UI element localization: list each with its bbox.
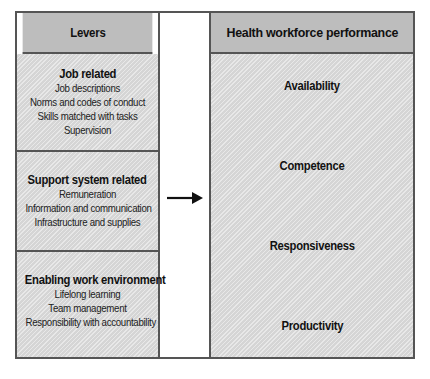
lever-item: Infrastructure and supplies (25, 215, 149, 229)
outcome-label: Competence (280, 159, 345, 173)
lever-section-title: Job related (59, 67, 116, 81)
levers-header-label: Levers (70, 25, 105, 40)
outcome-label: Responsiveness (269, 239, 354, 253)
lever-section-job-related: Job related Job descriptions Norms and c… (17, 54, 158, 152)
lever-item: Skills matched with tasks (25, 109, 149, 123)
outcome-competence: Competence (211, 159, 413, 173)
lever-item: Supervision (25, 123, 149, 137)
outcome-label: Availability (284, 79, 340, 93)
lever-item: Team management (25, 301, 149, 315)
outcome-responsiveness: Responsiveness (211, 239, 413, 253)
lever-item: Norms and codes of conduct (25, 95, 149, 109)
levers-column: Levers Job related Job descriptions Norm… (15, 11, 160, 359)
performance-column: Health workforce performance Availabilit… (209, 11, 415, 359)
performance-header: Health workforce performance (211, 13, 413, 54)
performance-body: Availability Competence Responsiveness P… (211, 54, 413, 357)
lever-section-title: Support system related (28, 173, 147, 187)
right-arrow-icon (167, 191, 203, 205)
lever-item: Information and communication (25, 201, 149, 215)
outcome-label: Productivity (281, 319, 343, 333)
lever-item: Job descriptions (25, 81, 149, 95)
lever-section-enabling-environment: Enabling work environment Lifelong learn… (17, 252, 158, 357)
outcome-availability: Availability (211, 79, 413, 93)
levers-header: Levers (23, 13, 153, 54)
lever-section-support-system: Support system related Remuneration Info… (17, 152, 158, 252)
lever-item: Responsibility with accountability (25, 315, 149, 329)
outcome-productivity: Productivity (211, 319, 413, 333)
lever-item: Remuneration (25, 187, 149, 201)
lever-item: Lifelong learning (25, 287, 149, 301)
performance-header-label: Health workforce performance (226, 25, 398, 40)
lever-section-title: Enabling work environment (25, 273, 166, 287)
